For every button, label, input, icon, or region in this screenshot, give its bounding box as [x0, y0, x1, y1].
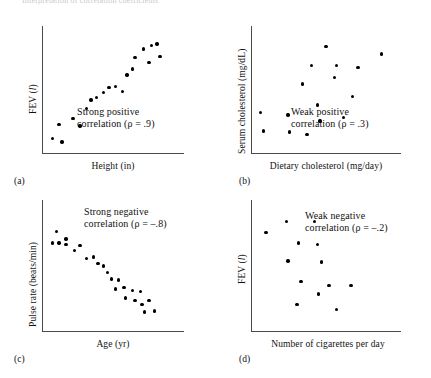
scatter-point	[131, 289, 134, 292]
panel-c-y-axis-label: Pulse rate (beats/min)	[28, 242, 38, 327]
scatter-point	[317, 292, 320, 295]
scatter-point	[124, 296, 127, 299]
scatter-point	[305, 133, 308, 136]
panel-a-plot-area	[44, 28, 182, 152]
scatter-point	[295, 303, 298, 306]
scatter-point	[51, 241, 54, 244]
scatter-point	[288, 130, 291, 133]
scatter-point	[335, 308, 338, 311]
panel-a-letter: (a)	[14, 176, 25, 186]
scatter-point	[299, 280, 302, 283]
scatter-point	[73, 249, 76, 252]
scatter-point	[133, 56, 136, 59]
scatter-point	[259, 111, 262, 114]
scatter-point	[133, 299, 136, 302]
panel-b-letter: (b)	[239, 176, 250, 186]
panel-d-y-axis-label-close: )	[237, 254, 247, 257]
panel-a-y-axis-label: FEV (l)	[28, 84, 38, 114]
scatter-point	[51, 137, 54, 140]
scatter-point	[95, 96, 98, 99]
scatter-point	[327, 284, 330, 287]
panel-d-x-axis-label: Number of cigarettes per day	[233, 339, 423, 349]
scatter-point	[150, 44, 153, 47]
scatter-point	[155, 42, 158, 45]
scatter-point	[333, 76, 336, 79]
scatter-point	[64, 243, 67, 246]
panel-b-x-axis-label: Dietary cholesterol (mg/day)	[237, 161, 415, 171]
panel-a: FEV (l) Height (in) (a) Strong positive …	[0, 14, 215, 184]
scatter-point	[57, 123, 60, 126]
scatter-point	[316, 103, 319, 106]
scatter-point	[122, 286, 125, 289]
scatter-point	[121, 90, 124, 93]
panel-c-letter: (c)	[14, 354, 25, 364]
scatter-point	[57, 241, 60, 244]
panel-c-plot-area	[44, 202, 182, 330]
scatter-point	[107, 86, 110, 89]
panel-d-y-axis-label-unit: l	[237, 257, 247, 260]
panel-a-y-axis-label-text: FEV (	[28, 90, 38, 114]
scatter-point	[110, 277, 113, 280]
panel-b: Serum cholesterol (mg/dL) Dietary choles…	[215, 14, 431, 184]
scatter-point	[286, 259, 289, 262]
scatter-point	[324, 45, 327, 48]
scatter-point	[316, 243, 319, 246]
scatter-point	[106, 271, 109, 274]
figure-top-caption: Interpretation of correlation coefficien…	[22, 0, 322, 4]
correlation-figure: Interpretation of correlation coefficien…	[0, 0, 431, 378]
scatter-point	[131, 67, 134, 70]
scatter-point	[320, 260, 323, 263]
scatter-point	[147, 299, 150, 302]
panel-d-plot-area	[253, 202, 399, 330]
scatter-point	[64, 237, 67, 240]
scatter-point	[85, 257, 88, 260]
scatter-point	[380, 52, 383, 55]
scatter-point	[158, 55, 161, 58]
panel-b-y-axis-label: Serum cholesterol (mg/dL)	[237, 49, 247, 154]
scatter-point	[356, 66, 359, 69]
scatter-point	[125, 73, 128, 76]
scatter-point	[318, 119, 321, 122]
scatter-point	[264, 231, 267, 234]
scatter-point	[342, 116, 345, 119]
scatter-point	[78, 244, 81, 247]
panel-a-y-axis-label-close: )	[28, 84, 38, 87]
panel-d-y-axis-label: FEV (l)	[237, 254, 247, 284]
scatter-point	[351, 95, 354, 98]
panel-c-y-axis-label-text: Pulse rate (beats/min)	[28, 242, 38, 327]
scatter-point	[71, 117, 74, 120]
scatter-point	[139, 290, 142, 293]
scatter-point	[55, 230, 58, 233]
scatter-point	[117, 278, 120, 281]
scatter-point	[313, 220, 316, 223]
scatter-point	[153, 309, 156, 312]
scatter-point	[89, 98, 92, 101]
scatter-point	[349, 284, 352, 287]
scatter-point	[96, 262, 99, 265]
panel-c-x-axis-label: Age (yr)	[42, 339, 184, 349]
scatter-point	[102, 264, 105, 267]
scatter-point	[114, 287, 117, 290]
scatter-point	[297, 241, 300, 244]
scatter-point	[114, 85, 117, 88]
scatter-point	[335, 64, 338, 67]
panel-b-plot-area	[253, 28, 399, 152]
scatter-point	[285, 220, 288, 223]
scatter-point	[102, 91, 105, 94]
scatter-point	[140, 303, 143, 306]
scatter-point	[301, 82, 304, 85]
panel-b-y-axis-label-text: Serum cholesterol (mg/dL)	[237, 49, 247, 154]
scatter-point	[147, 61, 150, 64]
scatter-point	[142, 47, 145, 50]
panel-c: Pulse rate (beats/min) Age (yr) (c) Stro…	[0, 192, 215, 378]
scatter-point	[60, 140, 63, 143]
panel-a-x-axis-label: Height (in)	[42, 161, 184, 171]
scatter-point	[85, 107, 88, 110]
scatter-point	[92, 255, 95, 258]
panel-d-y-axis-label-text: FEV (	[237, 260, 247, 284]
scatter-point	[310, 64, 313, 67]
scatter-point	[143, 310, 146, 313]
panel-d: FEV (l) Number of cigarettes per day (d)…	[215, 192, 431, 378]
scatter-point	[78, 124, 81, 127]
panel-a-y-axis-label-unit: l	[28, 87, 38, 90]
